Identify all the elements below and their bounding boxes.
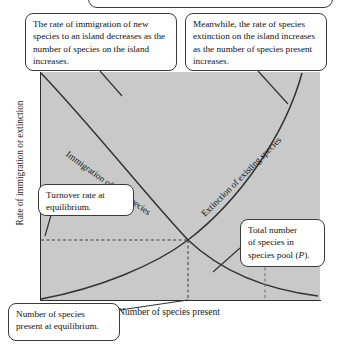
callout-turnover-rate: Turnover rate at equilibrium. [38,184,134,216]
callout-extinction-rate: Meanwhile, the rate of species extinctio… [185,13,327,71]
callout-immigration-rate: The rate of immigration of new species t… [25,13,177,71]
callout-species-pool-line3-post: ). [304,250,309,260]
callout-species-pool-line1: Total number [248,225,297,235]
leader-line-immigration [100,71,122,96]
callout-equilibrium-species: Number of species present at equilibrium… [8,303,120,341]
x-axis-label: Number of species present [118,306,220,317]
callout-species-pool-line3-pre: species pool ( [248,250,299,260]
island-biogeography-figure: Rate of immigration or extinction Number… [0,0,341,348]
callout-species-pool-line2: of species in [248,237,294,247]
callout-species-pool: Total number of species in species pool … [240,219,325,267]
y-axis-label: Rate of immigration or extinction [15,73,25,253]
leader-line-extinction [258,71,288,104]
